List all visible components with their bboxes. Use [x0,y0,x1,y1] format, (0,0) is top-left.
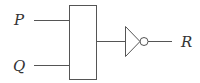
gate-block [70,6,97,80]
input-label-q: Q [13,57,25,75]
input-label-p: P [13,11,25,29]
logic-circuit-diagram: P Q R [0,0,200,83]
not-gate-bubble-icon [140,38,148,46]
output-label-r: R [180,33,192,51]
not-gate-triangle-icon [126,27,141,57]
